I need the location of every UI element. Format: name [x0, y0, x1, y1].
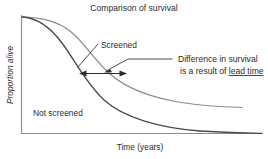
survival-comparison-figure: Comparison of survival Proportion alive …	[0, 0, 268, 159]
annotation-line-2: is a result of lead time	[180, 66, 264, 76]
screened-leader-line	[78, 44, 98, 67]
annotation-line-2-emphasis: lead time	[229, 66, 264, 76]
annotation-line-2-prefix: is a result of	[180, 66, 229, 76]
series-label-not-screened: Not screened	[33, 108, 83, 118]
chart-title: Comparison of survival	[90, 3, 177, 13]
y-axis-label: Proportion alive	[5, 46, 15, 105]
annotation-leader-line	[106, 59, 172, 71]
series-label-screened: Screened	[101, 40, 137, 50]
x-axis-label: Time (years)	[117, 142, 164, 152]
annotation-line-1: Difference in survival	[178, 54, 258, 64]
lead-time-bias-chart: Comparison of survival Proportion alive …	[0, 0, 268, 159]
lead-time-arrow	[79, 71, 127, 77]
